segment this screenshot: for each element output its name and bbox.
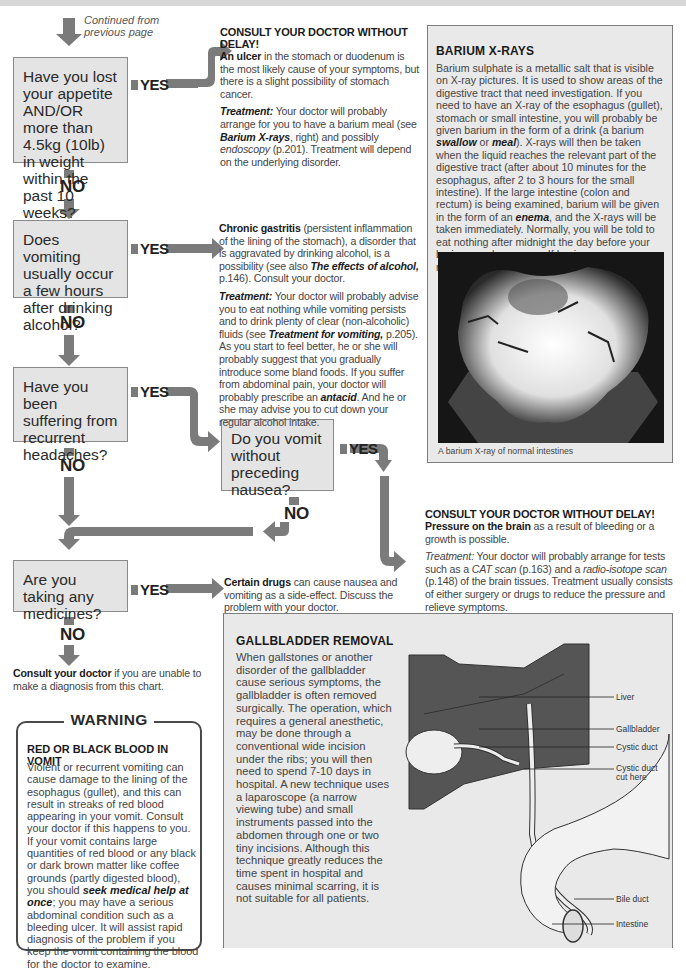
gallbladder-removal-panel: GALLBLADDER REMOVAL When gallstones or a… xyxy=(223,613,673,948)
question-medicines[interactable]: Are you taking any medicines? xyxy=(13,560,128,612)
question-text: Are you taking any medicines? xyxy=(23,571,101,622)
no-label-appetite: NO xyxy=(60,177,85,197)
diagram-label-liver: Liver xyxy=(616,693,634,702)
question-alcohol[interactable]: Does vomiting usually occur a few hours … xyxy=(13,220,128,298)
warning-body: Violent or recurrent vomiting can cause … xyxy=(27,761,199,970)
diagram-label-bile-duct: Bile duct xyxy=(616,895,649,904)
no-label-alcohol: NO xyxy=(60,313,85,333)
no-label-medicines: NO xyxy=(60,625,85,645)
warning-box: WARNING RED OR BLACK BLOOD IN VOMIT Viol… xyxy=(16,721,202,951)
no-label-headaches: NO xyxy=(60,456,85,476)
panel-body: Barium sulphate is a metallic salt that … xyxy=(436,62,668,273)
arrow-start-icon xyxy=(63,18,75,36)
answer-brain: CONSULT YOUR DOCTOR WITHOUT DELAY! Press… xyxy=(425,508,675,618)
answer-heading: CONSULT YOUR DOCTOR WITHOUT DELAY! xyxy=(425,508,675,520)
panel-title: BARIUM X-RAYS xyxy=(436,44,534,58)
diagram-label-gallbladder: Gallbladder xyxy=(616,725,659,734)
yes-label-headaches: YES xyxy=(131,383,169,400)
no-label-nausea: NO xyxy=(284,504,309,524)
question-text: Do you vomit without preceding nausea? xyxy=(231,430,321,498)
diagram-label-cystic-duct: Cystic duct xyxy=(616,743,658,752)
barium-xrays-panel: BARIUM X-RAYS Barium sulphate is a metal… xyxy=(427,25,673,463)
answer-heading: CONSULT YOUR DOCTOR WITHOUT DELAY! xyxy=(220,26,420,50)
image-caption: A barium X-ray of normal intestines xyxy=(438,446,573,456)
diagram-label-cystic-duct-cut: Cystic duct cut here xyxy=(616,764,671,782)
panel-body: When gallstones or another disorder of t… xyxy=(236,651,396,905)
continued-note: Continued from previous page xyxy=(84,14,174,38)
diagram-label-intestine: Intestine xyxy=(616,920,648,929)
yes-label-nausea: YES xyxy=(340,440,378,457)
answer-gastritis: Chronic gastritis (persistent inflammati… xyxy=(219,222,419,434)
warning-title: WARNING xyxy=(18,711,200,729)
question-appetite[interactable]: Have you lost your appetite AND/OR more … xyxy=(13,57,128,163)
yes-label-alcohol: YES xyxy=(131,240,169,257)
answer-consult: Consult your doctor if you are unable to… xyxy=(13,667,213,697)
question-headaches[interactable]: Have you been suffering from recurrent h… xyxy=(13,367,128,442)
question-text: Have you been suffering from recurrent h… xyxy=(23,378,117,463)
answer-ulcer: CONSULT YOUR DOCTOR WITHOUT DELAY! An ul… xyxy=(220,26,420,173)
barium-xray-image xyxy=(438,252,664,443)
yes-label-appetite: YES xyxy=(131,76,169,93)
panel-title: GALLBLADDER REMOVAL xyxy=(236,634,394,648)
yes-label-medicines: YES xyxy=(131,581,169,598)
